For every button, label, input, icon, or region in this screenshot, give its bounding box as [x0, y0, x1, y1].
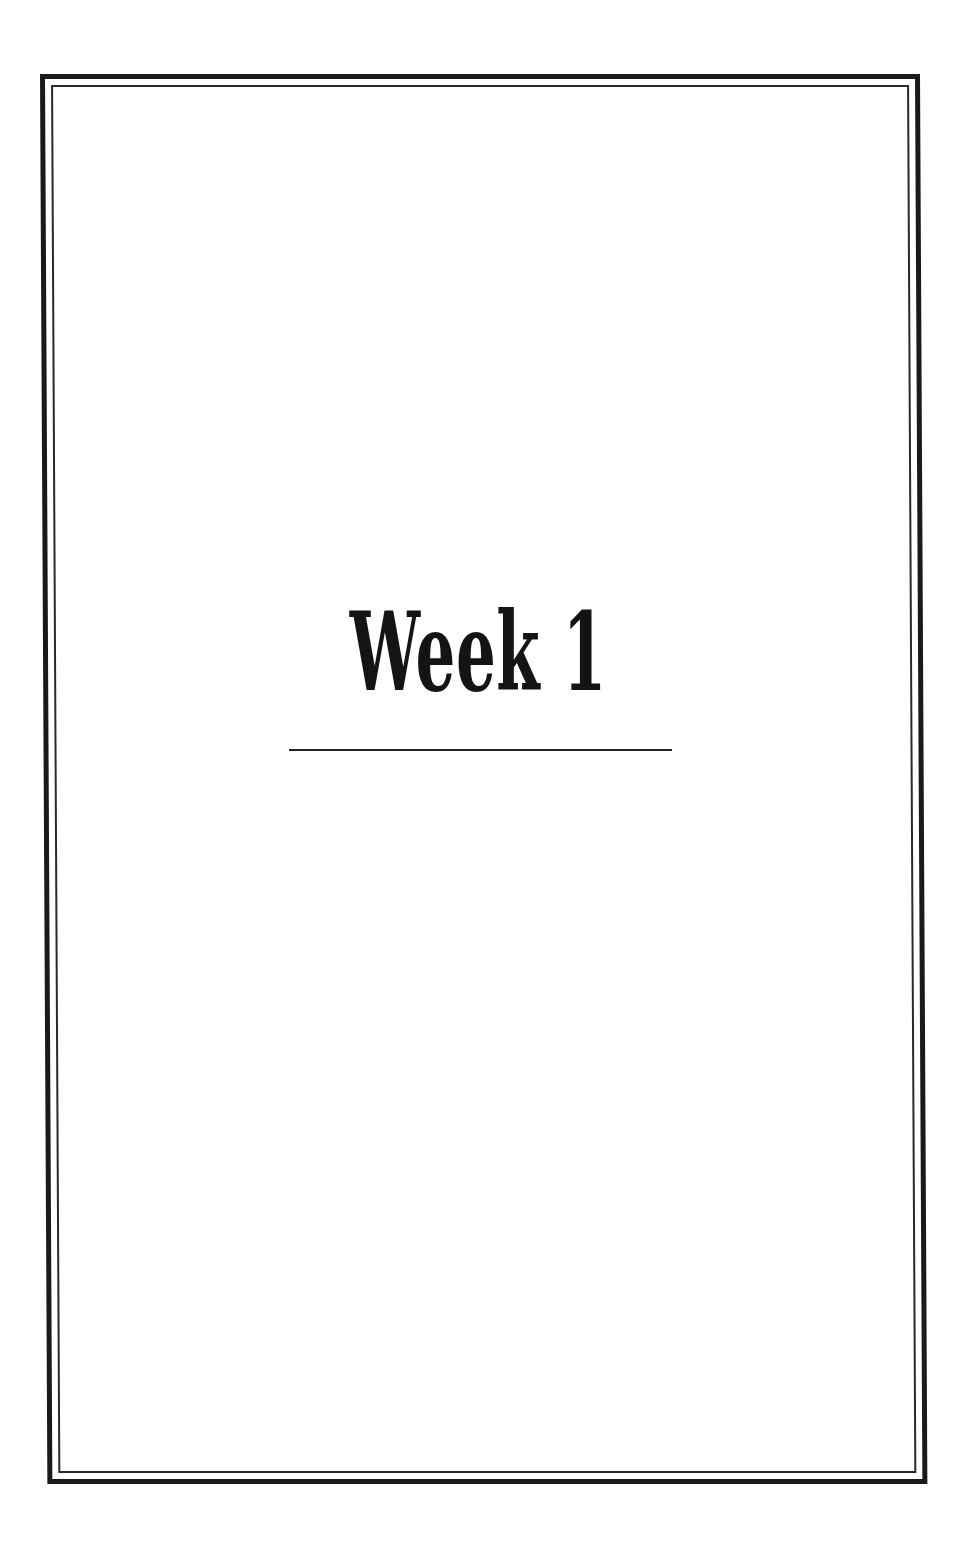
title-block: Week 1: [0, 0, 954, 1562]
page-title: Week 1: [202, 598, 755, 706]
title-underline-divider: [289, 749, 672, 751]
